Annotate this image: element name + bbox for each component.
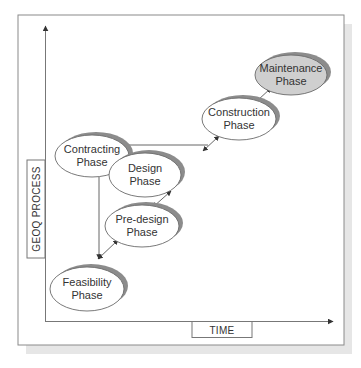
node-label: Phase: [126, 226, 157, 238]
node-label: Phase: [129, 175, 160, 187]
node-label: Phase: [275, 75, 306, 87]
node-label: Construction: [208, 106, 270, 118]
geoq-phase-diagram: GEOQ PROCESS TIME ContractingPhaseFeasib…: [0, 0, 361, 368]
node-label: Phase: [71, 289, 102, 301]
x-axis-label-box: TIME: [192, 322, 252, 338]
node-label: Feasibility: [63, 276, 112, 288]
x-axis-label: TIME: [209, 325, 234, 336]
y-axis-label-box: GEOQ PROCESS: [27, 160, 45, 258]
node-label: Maintenance: [260, 62, 323, 74]
node-label: Pre-design: [115, 213, 168, 225]
node-label: Phase: [223, 119, 254, 131]
node-label: Phase: [76, 156, 107, 168]
node-label: Contracting: [64, 143, 120, 155]
node-label: Design: [128, 162, 162, 174]
y-axis-label: GEOQ PROCESS: [31, 166, 42, 251]
